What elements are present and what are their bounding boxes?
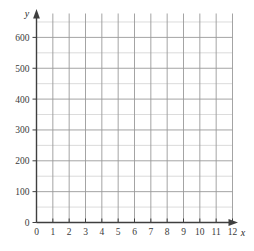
y-tick-label: 200 — [15, 156, 30, 166]
x-tick-label: 12 — [228, 227, 238, 237]
y-tick-label: 600 — [15, 33, 30, 43]
x-axis-label: x — [240, 227, 246, 238]
chart-figure: 0100200300400500600 0123456789101112 y x — [0, 0, 254, 251]
y-axis-label: y — [24, 8, 30, 19]
x-tick-label: 2 — [67, 227, 72, 237]
coordinate-grid-plot: 0100200300400500600 0123456789101112 y x — [0, 0, 254, 251]
x-tick-label: 1 — [50, 227, 55, 237]
x-tick-label: 6 — [132, 227, 137, 237]
x-tick-label: 4 — [99, 227, 104, 237]
x-tick-label: 0 — [34, 227, 39, 237]
x-tick-label: 8 — [165, 227, 170, 237]
x-tick-label: 7 — [148, 227, 153, 237]
y-tick-label: 400 — [15, 95, 30, 105]
y-tick-label: 100 — [15, 187, 30, 197]
y-tick-label: 300 — [15, 125, 30, 135]
y-tick-label: 500 — [15, 64, 30, 74]
x-tick-label: 11 — [212, 227, 221, 237]
x-tick-label: 9 — [181, 227, 186, 237]
y-tick-label: 0 — [25, 218, 30, 228]
x-tick-label: 5 — [116, 227, 121, 237]
x-tick-label: 10 — [195, 227, 205, 237]
x-tick-label: 3 — [83, 227, 88, 237]
